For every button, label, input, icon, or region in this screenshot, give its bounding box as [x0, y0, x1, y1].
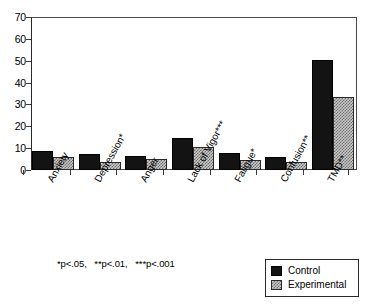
y-tick-label: 20 — [0, 121, 26, 131]
y-axis: 010203040506070 — [0, 17, 26, 170]
x-tick-mark — [303, 170, 304, 175]
significance-footnote: *p<.05, **p<.01, ***p<.001 — [57, 258, 175, 270]
y-tick-label: 0 — [0, 165, 26, 175]
y-tick-label: 50 — [0, 56, 26, 66]
y-tick-label: 30 — [0, 99, 26, 109]
bar-control — [219, 153, 240, 170]
y-tick-label: 40 — [0, 78, 26, 88]
x-tick-mark — [163, 170, 164, 175]
x-tick-mark — [23, 170, 24, 175]
legend-item-control: Control — [271, 264, 353, 278]
x-tick-mark — [70, 170, 71, 175]
y-tick-label: 60 — [0, 34, 26, 44]
x-tick-mark — [348, 170, 349, 175]
legend-label-control: Control — [288, 266, 320, 276]
y-tick-mark — [26, 170, 31, 171]
y-tick-label: 10 — [0, 143, 26, 153]
x-tick-mark — [256, 170, 257, 175]
x-tick-mark — [116, 170, 117, 175]
x-tick-mark — [210, 170, 211, 175]
legend-item-experimental: Experimental — [271, 278, 353, 292]
y-tick-label: 70 — [0, 12, 26, 22]
legend-swatch-control-icon — [271, 266, 282, 276]
legend-swatch-experimental-icon — [271, 280, 282, 290]
bar-control — [312, 60, 333, 170]
bar-control — [172, 138, 193, 170]
chart-legend: Control Experimental — [265, 259, 359, 297]
bar-chart-figure: 010203040506070 AnxietyDepression*AngerL… — [0, 0, 368, 305]
legend-label-experimental: Experimental — [288, 280, 346, 290]
